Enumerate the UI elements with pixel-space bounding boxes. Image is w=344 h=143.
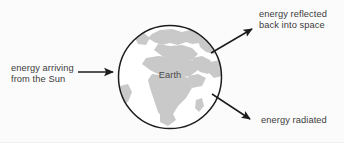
diagram-canvas: Earth energy arriving from the Sun energ… [0,0,344,143]
radiated-energy-label: energy radiated [261,115,327,126]
incoming-energy-label: energy arriving from the Sun [11,63,74,86]
radiated-energy-arrow [212,94,250,119]
reflected-energy-arrow [211,29,252,53]
earth-label: Earth [117,70,223,80]
reflected-energy-label: energy reflected back into space [259,9,327,32]
